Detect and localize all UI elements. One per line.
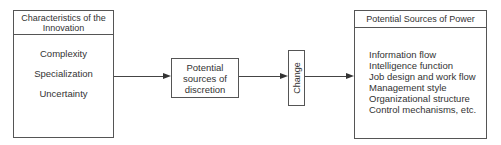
discretion-line: discretion: [172, 84, 238, 95]
change-box: Change: [288, 50, 305, 106]
arrowhead-icon: [163, 73, 171, 79]
list-item: Organizational structure: [369, 93, 486, 104]
innovation-characteristics-list: Complexity Specialization Uncertainty: [14, 35, 113, 108]
list-item: Specialization: [14, 68, 113, 88]
list-item: Job design and work flow: [369, 71, 486, 82]
change-label: Change: [292, 62, 302, 94]
discretion-line: Potential: [172, 62, 238, 73]
connector-line: [114, 76, 164, 77]
power-sources-box: Potential Sources of Power Information f…: [354, 10, 487, 139]
list-item: Uncertainty: [14, 88, 113, 108]
innovation-characteristics-box: Characteristics of the Innovation Comple…: [13, 10, 114, 138]
list-item: Intelligence function: [369, 60, 486, 71]
innovation-characteristics-title: Characteristics of the Innovation: [14, 11, 113, 35]
discretion-line: sources of: [172, 73, 238, 84]
arrowhead-icon: [280, 73, 288, 79]
list-item: Management style: [369, 82, 486, 93]
list-item: Control mechanisms, etc.: [369, 104, 486, 115]
connector-line: [239, 76, 281, 77]
list-item: Complexity: [14, 48, 113, 68]
list-item: Information flow: [369, 49, 486, 60]
connector-line: [305, 76, 347, 77]
discretion-box: Potential sources of discretion: [171, 58, 239, 98]
power-sources-list: Information flow Intelligence function J…: [355, 28, 486, 115]
power-sources-title: Potential Sources of Power: [355, 11, 486, 28]
arrowhead-icon: [346, 73, 354, 79]
